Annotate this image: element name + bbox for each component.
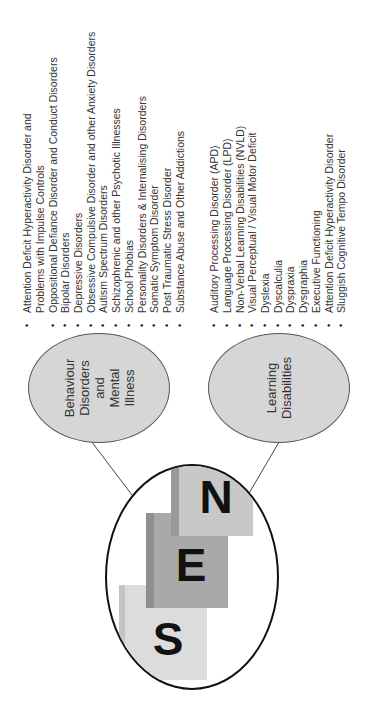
oval-learning-label: Learning Disabilities — [264, 357, 294, 419]
list-item: •Dysgraphia — [297, 126, 310, 327]
sen-diagram: S E N Behaviour Disorders and Mental Ill… — [0, 0, 365, 707]
bullet-icon: • — [260, 313, 270, 327]
connector-behaviour — [88, 437, 132, 495]
list-item-text: Obsessive Compulsive Disorder and other … — [85, 32, 97, 313]
bullet-icon: • — [22, 313, 32, 327]
bullet-icon: • — [86, 313, 96, 327]
list-item: •Schizophrenic and other Psychotic Illne… — [110, 32, 123, 327]
oval-learning-disabilities: Learning Disabilities — [208, 333, 350, 443]
list-item-text: Executive Functioning — [310, 210, 322, 313]
list-item-text: Language Processing Disorder (LPD) — [221, 138, 233, 313]
bullet-icon: • — [175, 313, 185, 327]
list-item: •Visual Perceptual / Visual Motor Defici… — [246, 126, 259, 327]
list-item-text: Dyscalculia — [272, 260, 284, 313]
list-item: •Auditory Processing Disorder (APD) — [208, 126, 221, 327]
list-item: •School Phobias — [123, 32, 136, 327]
list-item-text: Personality Disorders & Internalising Di… — [136, 96, 148, 313]
letter-n: N — [199, 474, 232, 520]
bullet-icon: • — [48, 313, 58, 327]
list-item: •Oppositional Defiance Disorder and Cond… — [46, 32, 59, 327]
behaviour-list: •Attention Deficit Hyperactivity Disorde… — [21, 32, 186, 327]
list-item: •Language Processing Disorder (LPD) — [221, 126, 234, 327]
bullet-icon: • — [124, 313, 134, 327]
list-item-text: Attention Deficit Hyperactivity Disorder… — [21, 113, 33, 313]
list-item: •Depressive Disorders — [72, 32, 85, 327]
list-item-text: Depressive Disorders — [72, 213, 84, 313]
list-item: •Post Traumatic Stress Disorder — [161, 32, 174, 327]
bullet-icon: • — [298, 313, 308, 327]
bullet-icon: • — [60, 313, 70, 327]
oval-label-line: Behaviour — [62, 359, 77, 418]
list-item-text: Sluggish Cognitive Tempo Disorder — [335, 149, 347, 313]
list-item-text: Schizophrenic and other Psychotic Illnes… — [110, 108, 122, 313]
list-item-text: Attention Deficit Hyperactivity Disorder — [323, 134, 335, 313]
connector-learning — [248, 437, 282, 495]
list-item-text: Bipolar Disorders — [59, 232, 71, 313]
bullet-icon: • — [73, 313, 83, 327]
oval-behaviour-disorders: Behaviour Disorders and Mental Illness — [28, 333, 170, 443]
list-item-text: Visual Perceptual / Visual Motor Deficit — [246, 132, 258, 313]
list-item-text: Auditory Processing Disorder (APD) — [208, 146, 220, 313]
list-item-text: Dyspraxia — [284, 266, 296, 313]
bullet-icon: • — [137, 313, 147, 327]
bullet-icon: • — [98, 313, 108, 327]
card-n: N — [171, 464, 253, 536]
list-item: Problems with Impulse Controls — [34, 32, 47, 327]
list-item: •Autism Spectrum Disorders — [97, 32, 110, 327]
list-item-text: Non-Verbal Learning Disabilities (NVLD) — [234, 126, 246, 313]
bullet-icon: • — [209, 313, 219, 327]
list-item-text: Dysgraphia — [297, 260, 309, 313]
list-item: •Dyscalculia — [271, 126, 284, 327]
bullet-icon: • — [311, 313, 321, 327]
bullet-icon: • — [235, 313, 245, 327]
list-item-text: Problems with Impulse Controls — [34, 165, 46, 313]
list-item-text: Autism Spectrum Disorders — [97, 185, 109, 313]
list-item: •Personality Disorders & Internalising D… — [135, 32, 148, 327]
oval-label-line: Mental — [107, 359, 122, 418]
list-item-text: Oppositional Defiance Disorder and Condu… — [47, 57, 59, 313]
letter-e: E — [176, 542, 207, 588]
bullet-icon: • — [324, 313, 334, 327]
bullet-icon: • — [336, 313, 346, 327]
learning-list: •Auditory Processing Disorder (APD) •Lan… — [208, 126, 348, 327]
list-item: •Executive Functioning — [310, 126, 323, 327]
list-item: •Attention Deficit Hyperactivity Disorde… — [21, 32, 34, 327]
list-item-text: Post Traumatic Stress Disorder — [161, 168, 173, 313]
bullet-icon: • — [111, 313, 121, 327]
bullet-icon: • — [222, 313, 232, 327]
oval-label-line: Learning — [264, 357, 279, 419]
oval-label-line: Disabilities — [279, 357, 294, 419]
bullet-icon: • — [162, 313, 172, 327]
list-item: •Attention Deficit Hyperactivity Disorde… — [322, 126, 335, 327]
list-item: •Dyspraxia — [284, 126, 297, 327]
sen-central-ellipse: S E N — [105, 464, 279, 690]
list-item: •Non-Verbal Learning Disabilities (NVLD) — [233, 126, 246, 327]
list-item: •Sluggish Cognitive Tempo Disorder — [335, 126, 348, 327]
list-item-text: Dyslexia — [259, 273, 271, 313]
bullet-icon: • — [149, 313, 159, 327]
list-item: •Dyslexia — [259, 126, 272, 327]
list-item: •Somatic Symptom Disorder — [148, 32, 161, 327]
list-item: •Substance Abuse and Other Addictions — [173, 32, 186, 327]
letter-s: S — [153, 616, 184, 662]
oval-behaviour-label: Behaviour Disorders and Mental Illness — [62, 359, 137, 418]
bullet-icon: • — [247, 313, 257, 327]
oval-label-line: and — [92, 359, 107, 418]
list-item: •Bipolar Disorders — [59, 32, 72, 327]
bullet-icon: • — [285, 313, 295, 327]
oval-label-line: Disorders — [77, 359, 92, 418]
list-item-text: School Phobias — [123, 240, 135, 313]
list-item: •Obsessive Compulsive Disorder and other… — [84, 32, 97, 327]
oval-label-line: Illness — [122, 359, 137, 418]
list-item-text: Somatic Symptom Disorder — [148, 185, 160, 313]
bullet-icon: • — [273, 313, 283, 327]
list-item-text: Substance Abuse and Other Addictions — [174, 131, 186, 313]
